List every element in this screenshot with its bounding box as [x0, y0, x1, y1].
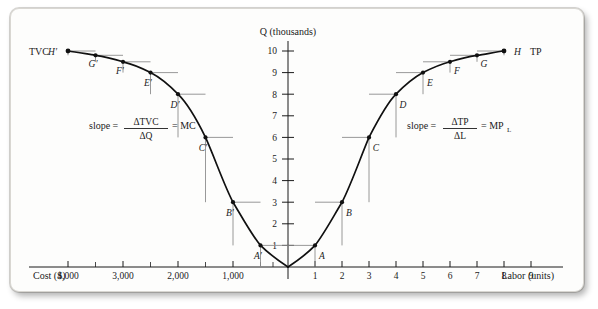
tp-formula-numerator: ΔTP	[451, 117, 468, 127]
tvc-point-label-D-prime: D′	[170, 100, 181, 110]
tp-curve	[288, 51, 504, 267]
tp-point-label-E: E	[426, 78, 433, 88]
tp-formula-denominator: ΔL	[454, 131, 466, 141]
tp-point-label-D: D	[399, 100, 407, 110]
y-tick-label-10: 10	[268, 46, 278, 56]
tvc-formula-tail: = MC	[172, 120, 196, 131]
chart-frame: 10 9 8 7 6 5 4 3 2 1 Q (thousands)	[10, 8, 584, 292]
y-tick-label-4: 4	[272, 176, 277, 186]
y-tick-label-2: 2	[272, 219, 277, 229]
y-tick-label-5: 5	[272, 154, 277, 164]
tp-curve-label: TP	[530, 46, 542, 57]
left-tick-label-1000: 1,000	[222, 271, 244, 281]
right-tick-label-4: 4	[394, 271, 399, 281]
tvc-curve-label: TVC	[29, 46, 49, 57]
right-tick-label-2: 2	[340, 271, 345, 281]
figure-root: 10 9 8 7 6 5 4 3 2 1 Q (thousands)	[0, 0, 598, 309]
tvc-curve	[68, 51, 288, 267]
right-tick-label-1: 1	[313, 271, 318, 281]
tvc-slope-formula: slope = ΔTVC ΔQ = MC	[89, 117, 196, 141]
right-tick-label-6: 6	[448, 271, 453, 281]
tvc-formula-lead: slope =	[89, 120, 119, 131]
tp-formula-tail-subscript: L	[507, 126, 511, 134]
left-tick-label-3000: 3,000	[112, 271, 134, 281]
left-tick-label-2000: 2,000	[167, 271, 189, 281]
right-tick-label-3: 3	[367, 271, 372, 281]
tvc-point-label-C-prime: C′	[199, 143, 208, 153]
tvc-step-triangles	[68, 51, 288, 267]
tp-point-label-G: G	[481, 59, 488, 69]
chart-plot: 10 9 8 7 6 5 4 3 2 1 Q (thousands)	[11, 9, 583, 291]
right-axis-title: Labor (units)	[502, 270, 555, 282]
y-tick-label-9: 9	[272, 68, 277, 78]
right-axis-ticks	[315, 261, 531, 267]
right-tick-label-7: 7	[475, 271, 480, 281]
tvc-point-label-E-prime: E′	[143, 78, 153, 88]
y-tick-label-6: 6	[272, 133, 277, 143]
tp-point-label-B: B	[346, 208, 352, 218]
tp-step-triangles	[288, 51, 504, 267]
right-tick-label-5: 5	[421, 271, 426, 281]
tp-point-label-A: A	[318, 251, 325, 261]
left-axis-ticks	[68, 261, 273, 267]
tvc-point-label-F-prime: F′	[115, 66, 125, 76]
tvc-formula-numerator: ΔTVC	[133, 117, 158, 127]
tp-formula-tail: = MP	[481, 120, 504, 131]
tvc-formula-denominator: ΔQ	[140, 131, 153, 141]
tvc-point-label-G-prime: G′	[89, 59, 99, 69]
tvc-point-label-A-prime: A′	[253, 251, 263, 261]
tp-slope-formula: slope = ΔTP ΔL = MP L	[407, 117, 511, 141]
y-tick-label-8: 8	[272, 90, 277, 100]
left-axis-title: Cost ($)	[33, 270, 66, 282]
tvc-point-label-B-prime: B′	[226, 208, 235, 218]
tp-point-label-C: C	[373, 143, 380, 153]
tp-point-label-H: H	[513, 47, 522, 57]
y-tick-label-3: 3	[272, 198, 277, 208]
y-tick-label-7: 7	[272, 111, 277, 121]
tp-formula-lead: slope =	[407, 120, 437, 131]
tp-point-label-F: F	[453, 66, 460, 76]
y-axis-title: Q (thousands)	[260, 26, 316, 38]
